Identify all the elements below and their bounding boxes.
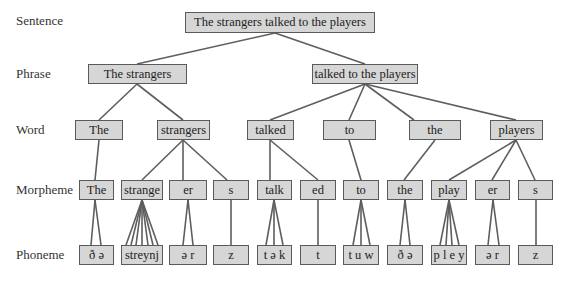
word-node: talked	[247, 120, 294, 140]
morpheme-node: play	[431, 180, 467, 200]
word-node: strangers	[157, 120, 210, 140]
morpheme-node: strange	[121, 180, 163, 200]
morpheme-node: the	[387, 180, 423, 200]
word-node: to	[323, 120, 376, 140]
level-label-phrase: Phrase	[16, 66, 51, 82]
morpheme-node: The	[79, 180, 114, 200]
morpheme-node: ed	[300, 180, 336, 200]
phoneme-node: t u w	[343, 245, 379, 265]
morpheme-node: talk	[257, 180, 292, 200]
phoneme-node: ə r	[169, 245, 207, 265]
morpheme-node: er	[169, 180, 207, 200]
phoneme-node: z	[213, 245, 249, 265]
word-node: The	[75, 120, 123, 140]
morpheme-node: to	[343, 180, 379, 200]
phrase-node: talked to the players	[312, 64, 418, 84]
phrase-node: The strangers	[88, 64, 187, 84]
word-node: the	[409, 120, 461, 140]
phoneme-node: p l e y	[431, 245, 467, 265]
phoneme-node: t ə k	[257, 245, 292, 265]
level-label-phoneme: Phoneme	[16, 247, 64, 263]
phoneme-node: ə r	[475, 245, 510, 265]
phoneme-node: z	[518, 245, 553, 265]
phoneme-node: ð ə	[387, 245, 423, 265]
morpheme-node: er	[475, 180, 510, 200]
level-label-morpheme: Morpheme	[16, 182, 73, 198]
morpheme-node: s	[518, 180, 553, 200]
level-label-word: Word	[16, 122, 45, 138]
level-label-sentence: Sentence	[16, 13, 63, 29]
phoneme-node: streynj	[121, 245, 163, 265]
phoneme-node: ð ə	[79, 245, 114, 265]
word-node: players	[490, 120, 543, 140]
sentence-node: The strangers talked to the players	[185, 12, 375, 33]
tree-edges	[0, 0, 571, 283]
phoneme-node: t	[300, 245, 336, 265]
morpheme-node: s	[213, 180, 249, 200]
